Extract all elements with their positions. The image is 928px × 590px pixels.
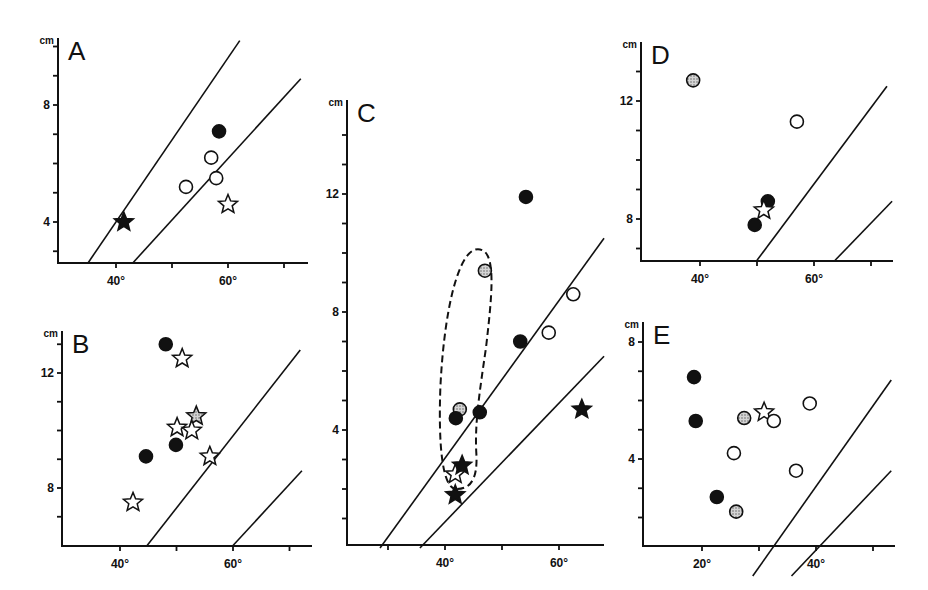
open-circle-marker <box>803 397 816 410</box>
x-tick-label: 40° <box>107 274 125 288</box>
panel-letter: E <box>653 320 670 350</box>
x-tick-label: 40° <box>807 557 825 571</box>
filled-circle-marker <box>473 406 486 419</box>
x-tick-label: 60° <box>224 557 242 571</box>
filled-circle-marker <box>689 414 702 427</box>
y-unit-label: cm <box>44 328 59 339</box>
y-unit-label: cm <box>623 39 638 50</box>
stippled-circle-marker <box>730 505 743 518</box>
open-circle-marker <box>727 447 740 460</box>
open-circle-marker <box>790 115 803 128</box>
x-tick-label: 60° <box>550 556 568 570</box>
y-tick-label: 8 <box>43 98 50 112</box>
panel-e: 48cm20°40°E <box>625 319 895 576</box>
filled-circle-marker <box>514 335 527 348</box>
filled-circle-marker <box>519 190 532 203</box>
filled-circle-marker <box>159 338 172 351</box>
y-tick-label: 12 <box>326 187 340 201</box>
filled-star-marker <box>114 212 133 230</box>
x-tick-label: 60° <box>219 274 237 288</box>
scatter-figure: 48cm40°60°A 812cm40°60°B 4812cm40°60°C 8… <box>0 0 928 590</box>
panel-c: 4812cm40°60°C <box>326 97 604 570</box>
reference-line <box>757 86 887 260</box>
open-circle-marker <box>790 464 803 477</box>
stippled-circle-marker <box>687 74 700 87</box>
axes <box>58 38 308 263</box>
y-tick-label: 8 <box>626 212 633 226</box>
y-unit-label: cm <box>329 97 344 108</box>
filled-circle-marker <box>169 438 182 451</box>
x-tick-label: 20° <box>693 557 711 571</box>
panel-letter: B <box>72 329 89 359</box>
panel-a: 48cm40°60°A <box>40 35 308 288</box>
open-star-marker <box>219 195 238 213</box>
dashed-enclosure <box>440 249 492 489</box>
axes <box>643 322 895 546</box>
stippled-star-marker <box>187 406 206 424</box>
y-tick-label: 8 <box>47 481 54 495</box>
axes <box>347 100 604 545</box>
y-tick-label: 8 <box>628 335 635 349</box>
x-tick-label: 40° <box>436 556 454 570</box>
panel-b: 812cm40°60°B <box>41 328 312 571</box>
open-star-marker <box>124 492 143 510</box>
x-tick-label: 40° <box>111 557 129 571</box>
panel-letter: D <box>651 40 670 70</box>
open-star-marker <box>200 446 219 464</box>
y-tick-label: 12 <box>620 94 634 108</box>
filled-circle-marker <box>139 450 152 463</box>
filled-circle-marker <box>748 218 761 231</box>
open-star-marker <box>173 349 192 367</box>
open-circle-marker <box>205 151 218 164</box>
y-tick-label: 12 <box>41 366 55 380</box>
reference-line <box>791 471 891 576</box>
filled-circle-marker <box>688 371 701 384</box>
y-tick-label: 4 <box>43 215 50 229</box>
y-tick-label: 8 <box>332 305 339 319</box>
open-circle-marker <box>542 326 555 339</box>
axes <box>641 42 893 261</box>
x-tick-label: 40° <box>691 272 709 286</box>
filled-circle-marker <box>710 491 723 504</box>
open-star-marker <box>182 421 201 439</box>
panel-letter: A <box>68 36 86 66</box>
filled-star-marker <box>572 399 591 417</box>
reference-line <box>420 356 604 548</box>
filled-circle-marker <box>213 125 226 138</box>
open-circle-marker <box>210 172 223 185</box>
x-tick-label: 60° <box>805 272 823 286</box>
y-unit-label: cm <box>625 319 640 330</box>
stippled-circle-marker <box>738 412 751 425</box>
panel-d: 812cm40°60°D <box>620 39 893 286</box>
open-circle-marker <box>767 414 780 427</box>
y-tick-label: 4 <box>332 423 339 437</box>
reference-line <box>233 471 302 546</box>
reference-line <box>835 201 892 260</box>
filled-circle-marker <box>449 412 462 425</box>
open-circle-marker <box>567 288 580 301</box>
y-unit-label: cm <box>40 35 55 46</box>
y-tick-label: 4 <box>628 452 635 466</box>
panel-letter: C <box>357 98 376 128</box>
stippled-circle-marker <box>478 264 491 277</box>
open-circle-marker <box>180 180 193 193</box>
reference-line <box>133 79 301 263</box>
